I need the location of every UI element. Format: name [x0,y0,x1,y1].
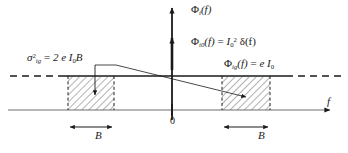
origin-label: 0 [170,116,175,126]
bandwidth-label-right: B [258,130,265,141]
delta-phi-symbol: Φ [191,35,199,47]
figure-canvas: Φi(f) Φi0(f) = I02 δ(f) σ2ig = 2 e I0B Φ… [0,0,348,153]
sigma-subscript: ig [36,57,41,64]
delta-equals: = [218,35,224,47]
shot-rhs: e I [259,57,270,69]
delta-term-label: Φi0(f) = I02 δ(f) [191,36,256,49]
variance-bandwidth: B [76,51,83,63]
variance-label: σ2ig = 2 e I0B [27,52,83,65]
delta-current-exponent: 2 [234,36,237,43]
bandwidth-label-left: B [95,130,102,141]
variance-equals: = [44,51,50,63]
delta-phi-argument: (f) [204,35,214,47]
shot-phi-argument: (f) [237,57,247,69]
vertical-axis-label: Φi(f) [191,4,211,17]
shot-level-label: Φig(f) = e I0 [224,58,274,71]
figure-graphics [0,0,348,153]
shot-rhs-subscript: 0 [271,63,274,70]
variance-rhs: 2 e I [53,51,73,63]
shot-phi-symbol: Φ [224,57,232,69]
frequency-axis-label: f [327,96,330,107]
negative-frequency-band [68,76,114,110]
delta-tail: δ(f) [240,35,256,47]
phi-argument: (f) [201,3,211,15]
phi-symbol: Φ [191,3,199,15]
shot-equals: = [251,57,257,69]
